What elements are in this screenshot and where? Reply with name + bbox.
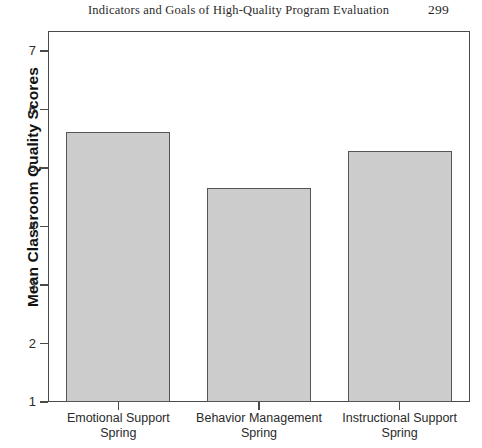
x-tick-label-line: Spring <box>179 426 339 441</box>
x-tick-label: Emotional SupportSpring <box>38 411 198 441</box>
x-tick-label-line: Behavior Management <box>179 411 339 426</box>
y-tick-mark <box>40 284 48 286</box>
x-tick-label: Instructional SupportSpring <box>320 411 480 441</box>
bar <box>207 188 311 402</box>
x-tick-label-line: Instructional Support <box>320 411 480 426</box>
y-tick-label: 4 <box>14 219 36 234</box>
y-tick-label: 1 <box>14 394 36 409</box>
y-tick-label: 5 <box>14 160 36 175</box>
y-tick-label: 2 <box>14 336 36 351</box>
y-tick-mark <box>40 167 48 169</box>
y-tick-label: 7 <box>14 43 36 58</box>
x-tick-label-line: Spring <box>38 426 198 441</box>
y-axis-title: Mean Classroom Quality Scores <box>24 37 42 337</box>
y-tick-mark <box>40 343 48 345</box>
x-tick-mark <box>258 402 260 410</box>
y-tick-mark <box>40 401 48 403</box>
bar <box>348 151 452 402</box>
bar-chart-figure: Mean Classroom Quality Scores 1234567 Em… <box>0 0 482 448</box>
bar <box>66 132 170 402</box>
x-tick-label: Behavior ManagementSpring <box>179 411 339 441</box>
y-tick-mark <box>40 109 48 111</box>
x-tick-label-line: Emotional Support <box>38 411 198 426</box>
x-tick-label-line: Spring <box>320 426 480 441</box>
x-tick-mark <box>118 402 120 410</box>
x-tick-mark <box>399 402 401 410</box>
y-tick-mark <box>40 226 48 228</box>
y-tick-label: 3 <box>14 277 36 292</box>
y-tick-label: 6 <box>14 102 36 117</box>
y-tick-mark <box>40 50 48 52</box>
